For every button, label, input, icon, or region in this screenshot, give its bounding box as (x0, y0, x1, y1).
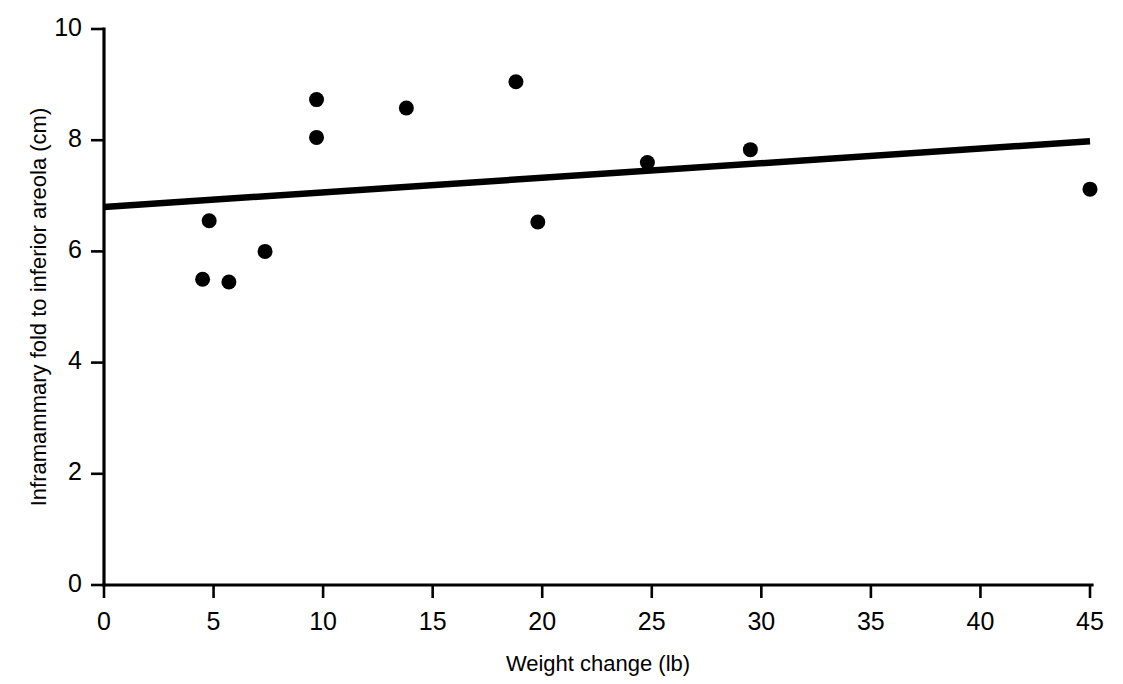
data-point (202, 213, 217, 228)
data-point (1083, 182, 1098, 197)
x-axis-tick-labels: 051015202530354045 (97, 607, 1104, 635)
data-point (309, 92, 324, 107)
x-axis-title: Weight change (lb) (506, 651, 690, 676)
data-point (309, 130, 324, 145)
chart-canvas: 0246810 Inframammary fold to inferior ar… (0, 0, 1123, 684)
x-tick-label: 35 (857, 607, 885, 635)
data-point (530, 214, 545, 229)
x-tick-label: 20 (528, 607, 556, 635)
x-tick-label: 25 (638, 607, 666, 635)
x-tick-label: 15 (419, 607, 447, 635)
regression-line (104, 141, 1090, 207)
trendline-group (104, 141, 1090, 207)
x-tick-label: 40 (967, 607, 995, 635)
x-tick-label: 45 (1076, 607, 1104, 635)
y-tick-label: 2 (68, 457, 82, 485)
y-axis-tick-labels: 0246810 (54, 13, 82, 597)
y-axis-group: 0246810 Inframammary fold to inferior ar… (26, 13, 104, 597)
y-tick-label: 4 (68, 346, 82, 374)
data-point (221, 274, 236, 289)
y-axis-ticks (91, 29, 104, 585)
x-axis-group: 051015202530354045 Weight change (lb) (97, 585, 1104, 676)
y-axis-title: Inframammary fold to inferior areola (cm… (26, 108, 51, 507)
x-tick-label: 5 (207, 607, 221, 635)
x-tick-label: 0 (97, 607, 111, 635)
data-point (743, 142, 758, 157)
data-point (508, 74, 523, 89)
x-tick-label: 10 (309, 607, 337, 635)
scatter-plot-figure: 0246810 Inframammary fold to inferior ar… (0, 0, 1123, 684)
y-tick-label: 10 (54, 13, 82, 41)
y-tick-label: 6 (68, 235, 82, 263)
data-point (195, 272, 210, 287)
data-points-group (195, 74, 1097, 289)
data-point (399, 100, 414, 115)
y-tick-label: 8 (68, 124, 82, 152)
data-point (258, 244, 273, 259)
data-point (640, 155, 655, 170)
x-tick-label: 30 (747, 607, 775, 635)
x-axis-ticks (104, 585, 1090, 598)
y-tick-label: 0 (68, 569, 82, 597)
